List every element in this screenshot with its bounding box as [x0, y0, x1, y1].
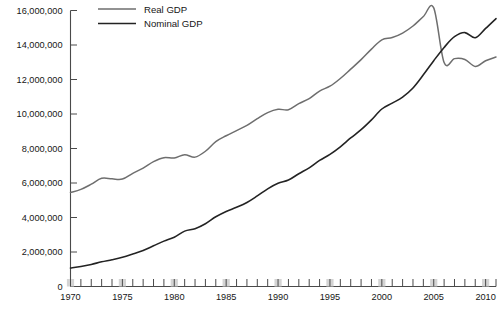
- x-tick-label: 1970: [60, 292, 80, 302]
- y-tick-label: 10,000,000: [17, 109, 63, 119]
- y-tick-label: 2,000,000: [22, 247, 63, 257]
- x-tick-label: 1985: [216, 292, 236, 302]
- y-tick-group: 02,000,0004,000,0006,000,0008,000,00010,…: [17, 6, 77, 292]
- y-tick-label: 4,000,000: [22, 213, 63, 223]
- y-tick-label: 6,000,000: [22, 178, 63, 188]
- x-tick-group: 197019751980198519901995200020052010: [60, 279, 496, 302]
- legend-label-real-gdp: Real GDP: [144, 4, 187, 15]
- legend-label-nominal-gdp: Nominal GDP: [144, 18, 203, 29]
- x-tick-label: 2000: [372, 292, 392, 302]
- y-tick-label: 16,000,000: [17, 6, 63, 16]
- y-tick-label: 14,000,000: [17, 40, 63, 50]
- legend: Real GDPNominal GDP: [98, 4, 203, 30]
- x-tick-label: 2005: [424, 292, 444, 302]
- x-tick-label: 2010: [475, 292, 495, 302]
- gdp-line-chart: 02,000,0004,000,0006,000,0008,000,00010,…: [0, 0, 504, 318]
- series-line-real-gdp: [71, 5, 497, 192]
- x-tick-label: 1980: [164, 292, 184, 302]
- series-line-nominal-gdp: [71, 19, 497, 268]
- y-tick-label: 8,000,000: [22, 144, 63, 154]
- x-tick-label: 1990: [268, 292, 288, 302]
- x-tick-label: 1975: [112, 292, 132, 302]
- y-tick-label: 0: [57, 282, 62, 292]
- x-tick-label: 1995: [320, 292, 340, 302]
- y-tick-label: 12,000,000: [17, 75, 63, 85]
- chart-canvas: 02,000,0004,000,0006,000,0008,000,00010,…: [0, 0, 504, 318]
